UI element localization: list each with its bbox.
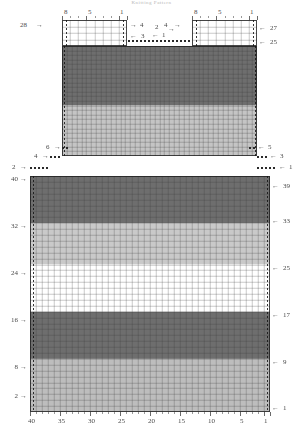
mid-right-dots-5 <box>249 147 257 150</box>
main-row-label-left-32: 32 <box>2 223 18 230</box>
ruler-tick <box>48 412 49 414</box>
arrow-left-row-17: ← <box>272 312 279 319</box>
ruler-tick <box>60 412 61 416</box>
stitch-dot <box>265 156 267 158</box>
top-center-dotted-run <box>128 40 192 43</box>
upper-body-grid-canvas <box>62 46 257 156</box>
stitch-dot <box>269 167 271 169</box>
top-left-col-label-1: 1 <box>120 9 124 16</box>
arrow-right-4: → <box>130 22 137 29</box>
ruler-tick <box>168 412 169 414</box>
arrow-right-row-2: → <box>20 393 27 400</box>
ruler-tick <box>108 412 109 414</box>
stitch-dot <box>160 40 162 42</box>
arrow-right-row-8: → <box>20 364 27 371</box>
ruler-tick <box>127 16 128 20</box>
ruler-tick <box>241 16 242 18</box>
mid-left-dots-2 <box>30 167 50 170</box>
ruler-tick <box>114 412 115 414</box>
mid-right-dots-1 <box>257 167 277 170</box>
ruler-tick <box>204 412 205 414</box>
main-row-label-right-17: 17 <box>283 312 290 319</box>
main-col-label-25: 25 <box>118 418 125 425</box>
mid-left-dots-4 <box>50 156 62 159</box>
mid-right-label-5: 5 <box>268 144 272 151</box>
arrow-left-25: ← <box>259 39 266 46</box>
stitch-dot <box>180 40 182 42</box>
stitch-dot <box>168 40 170 42</box>
stitch-dot <box>261 167 263 169</box>
mid-right-label-3: 3 <box>280 153 284 160</box>
arrow-left-3: ← <box>270 153 277 160</box>
ruler-tick <box>72 412 73 414</box>
stitch-dot <box>265 167 267 169</box>
arrow-right-2-top: → <box>168 26 175 33</box>
main-col-label-10: 10 <box>208 418 215 425</box>
ruler-tick <box>225 16 226 18</box>
arrow-left-1: ← <box>279 164 286 171</box>
main-col-label-35: 35 <box>58 418 65 425</box>
ruler-tick <box>30 412 31 416</box>
arrow-left-row-9: ← <box>272 359 279 366</box>
stitch-dot <box>30 167 32 169</box>
mid-left-label-2: 2 <box>12 164 16 171</box>
ruler-tick <box>78 412 79 414</box>
top-right-col-label-5: 5 <box>218 9 222 16</box>
arrow-right-6: → <box>54 144 61 151</box>
top-center-label-2: 2 <box>155 24 159 31</box>
ruler-tick <box>95 16 96 18</box>
ruler-tick <box>70 16 71 18</box>
ruler-tick <box>257 16 258 20</box>
stitch-dot <box>148 40 150 42</box>
main-row-label-right-33: 33 <box>283 218 290 225</box>
mid-left-label-6: 6 <box>46 144 50 151</box>
main-column-ruler <box>30 412 270 416</box>
top-right-row-label-4: 4 <box>164 22 168 29</box>
ruler-tick <box>126 412 127 414</box>
main-row-label-left-16: 16 <box>2 317 18 324</box>
arrow-left-row-1: ← <box>272 405 279 412</box>
stitch-dot <box>257 156 259 158</box>
ruler-tick <box>36 412 37 414</box>
ruler-tick <box>111 16 112 18</box>
main-row-label-left-24: 24 <box>2 270 18 277</box>
stitch-dot <box>184 40 186 42</box>
ruler-tick <box>192 412 193 414</box>
arrow-right-row-40: → <box>20 176 27 183</box>
stitch-dot <box>128 40 130 42</box>
ruler-tick <box>162 412 163 414</box>
top-left-row-label-3: 3 <box>141 33 145 40</box>
ruler-tick <box>66 412 67 414</box>
arrow-right-3: ← <box>130 33 137 40</box>
ruler-tick <box>138 412 139 414</box>
stitch-dot <box>136 40 138 42</box>
stitch-dot <box>176 40 178 42</box>
ruler-tick <box>54 412 55 414</box>
top-center-label-1: 1 <box>162 32 166 39</box>
ruler-tick <box>222 412 223 414</box>
ruler-tick <box>174 412 175 414</box>
stitch-dot <box>62 147 64 149</box>
stitch-dot <box>144 40 146 42</box>
main-row-label-left-40: 40 <box>2 176 18 183</box>
arrow-right-28: → <box>36 22 43 29</box>
ruler-tick <box>78 16 79 18</box>
ruler-tick <box>120 412 121 416</box>
top-right-row-label-25: 25 <box>270 39 277 46</box>
ruler-tick <box>228 412 229 414</box>
top-left-col-label-5: 5 <box>88 9 92 16</box>
stitch-dot <box>261 156 263 158</box>
top-right-row-label-27: 27 <box>270 25 277 32</box>
ruler-tick <box>200 16 201 18</box>
ruler-tick <box>180 412 181 416</box>
ruler-tick <box>240 412 241 416</box>
top-left-row-label-28: 28 <box>20 22 27 29</box>
stitch-dot <box>152 40 154 42</box>
ruler-tick <box>156 412 157 414</box>
arrow-right-row-24: → <box>20 270 27 277</box>
ruler-tick <box>150 412 151 416</box>
mid-left-label-4: 4 <box>34 153 38 160</box>
ruler-tick <box>198 412 199 414</box>
mid-right-dots-3 <box>257 156 269 159</box>
arrow-right-2-mid: → <box>20 164 27 171</box>
